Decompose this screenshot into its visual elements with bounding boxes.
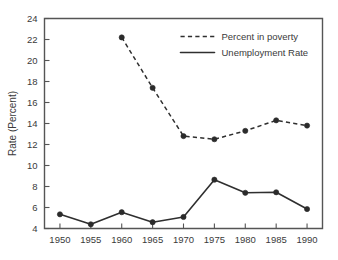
x-axis-tick-labels: 195019551960196519701975198019851990 (49, 234, 317, 245)
data-point-marker (304, 206, 309, 211)
chart-figure: 4681012141618202224 19501955196019651970… (0, 0, 338, 260)
data-point-marker (181, 214, 186, 219)
chart-legend: Percent in povertyUnemployment Rate (181, 31, 309, 58)
data-point-marker (150, 220, 155, 225)
data-point-marker (243, 190, 248, 195)
x-tick-label: 1975 (204, 234, 225, 245)
data-point-marker (274, 118, 279, 123)
data-point-marker (243, 128, 248, 133)
x-tick-label: 1985 (266, 234, 287, 245)
y-tick-label: 4 (32, 223, 37, 234)
y-tick-label: 8 (32, 181, 37, 192)
data-point-marker (88, 222, 93, 227)
x-tick-label: 1970 (173, 234, 194, 245)
y-tick-label: 10 (27, 160, 38, 171)
data-point-marker (119, 35, 124, 40)
y-tick-label: 14 (27, 118, 38, 129)
y-tick-label: 22 (27, 34, 38, 45)
y-tick-label: 6 (32, 202, 37, 213)
data-point-marker (181, 134, 186, 139)
legend-label: Percent in poverty (222, 31, 299, 42)
series-layer (57, 35, 309, 227)
y-tick-label: 24 (27, 13, 38, 24)
data-point-marker (119, 210, 124, 215)
x-tick-label: 1950 (49, 234, 70, 245)
y-tick-label: 16 (27, 97, 38, 108)
chart-series (57, 177, 309, 227)
data-point-marker (212, 137, 217, 142)
data-point-marker (212, 177, 217, 182)
y-axis-tick-labels: 4681012141618202224 (27, 13, 38, 234)
data-point-marker (304, 123, 309, 128)
y-tick-label: 20 (27, 55, 38, 66)
data-point-marker (57, 212, 62, 217)
y-tick-label: 18 (27, 76, 38, 87)
x-tick-label: 1965 (142, 234, 163, 245)
data-point-marker (150, 85, 155, 90)
line-chart: 4681012141618202224 19501955196019651970… (0, 0, 338, 260)
x-tick-label: 1960 (111, 234, 132, 245)
y-tick-label: 12 (27, 139, 38, 150)
x-tick-label: 1980 (235, 234, 256, 245)
y-axis-title: Rate (Percent) (7, 91, 18, 156)
x-tick-label: 1955 (80, 234, 101, 245)
data-point-marker (274, 190, 279, 195)
legend-label: Unemployment Rate (222, 47, 309, 58)
x-tick-label: 1990 (296, 234, 317, 245)
